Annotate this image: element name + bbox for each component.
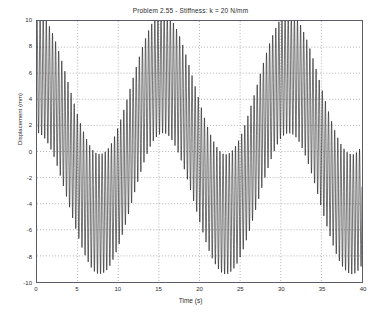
- x-tick-label: 30: [269, 286, 293, 292]
- plot-canvas: [37, 21, 362, 282]
- x-tick-label: 25: [228, 286, 252, 292]
- plot-area: [36, 20, 363, 283]
- x-tick-label: 35: [310, 286, 334, 292]
- y-tick-label: 8: [0, 43, 32, 49]
- chart-title: Problem 2.55 - Stiffness: k = 20 N/mm: [0, 7, 381, 14]
- y-tick-label: -6: [0, 227, 32, 233]
- x-tick-label: 5: [65, 286, 89, 292]
- y-tick-label: 2: [0, 122, 32, 128]
- x-tick-label: 40: [351, 286, 375, 292]
- y-tick-label: -8: [0, 253, 32, 259]
- y-axis-label: Displacement (mm): [17, 59, 23, 179]
- x-axis-label: Time (s): [0, 297, 381, 304]
- y-tick-label: -10: [0, 280, 32, 286]
- x-tick-label: 10: [106, 286, 130, 292]
- matlab-figure-window: Problem 2.55 - Stiffness: k = 20 N/mm Di…: [0, 0, 381, 318]
- x-tick-label: 0: [24, 286, 48, 292]
- x-tick-label: 20: [188, 286, 212, 292]
- y-tick-label: 0: [0, 148, 32, 154]
- y-tick-label: -4: [0, 201, 32, 207]
- y-tick-label: 4: [0, 95, 32, 101]
- y-tick-label: 10: [0, 17, 32, 23]
- y-tick-label: -2: [0, 174, 32, 180]
- y-tick-label: 6: [0, 69, 32, 75]
- x-tick-label: 15: [147, 286, 171, 292]
